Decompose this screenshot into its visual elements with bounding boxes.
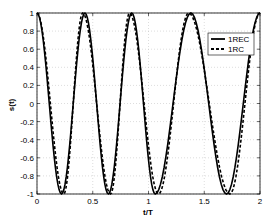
y-tick-label: 0.6 bbox=[23, 45, 35, 54]
y-tick-label: -1 bbox=[27, 190, 35, 199]
x-tick-label: 0.5 bbox=[87, 197, 99, 206]
y-tick-label: -0.2 bbox=[20, 118, 34, 127]
y-tick-label: -0.4 bbox=[20, 136, 34, 145]
legend: 1REC 1RC bbox=[208, 33, 254, 55]
legend-label-1rc: 1RC bbox=[228, 45, 244, 54]
line-chart: 00.511.5210.80.60.40.20-0.2-0.4-0.6-0.8-… bbox=[0, 0, 279, 222]
x-axis-label: t/T bbox=[143, 208, 153, 217]
y-tick-label: 0.2 bbox=[23, 81, 35, 90]
legend-label-1rec: 1REC bbox=[228, 35, 250, 44]
x-tick-label: 2 bbox=[258, 197, 263, 206]
y-tick-label: -0.6 bbox=[20, 154, 34, 163]
y-tick-label: 0.4 bbox=[23, 63, 35, 72]
x-tick-label: 0 bbox=[35, 197, 40, 206]
y-tick-label: 0.8 bbox=[23, 27, 35, 36]
x-tick-label: 1.5 bbox=[199, 197, 211, 206]
x-tick-label: 1 bbox=[146, 197, 151, 206]
y-axis-label: s(t) bbox=[7, 98, 16, 111]
y-tick-label: -0.8 bbox=[20, 172, 34, 181]
y-tick-label: 1 bbox=[30, 9, 35, 18]
y-tick-label: 0 bbox=[30, 100, 35, 109]
